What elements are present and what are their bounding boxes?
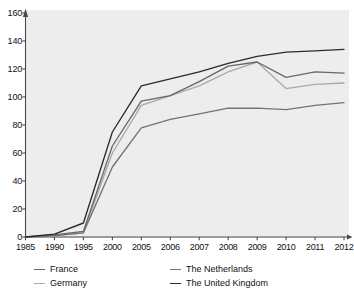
y-tick-label: 0 [0,233,22,242]
y-tick-label: 80 [0,121,22,130]
y-tick-label: 160 [0,9,22,18]
x-tick-label: 2011 [301,243,329,252]
legend-color-swatch [34,283,45,284]
y-tick-label: 120 [0,65,22,74]
x-tick-label: 2012 [330,243,354,252]
legend-item[interactable]: Germany [34,278,87,289]
y-tick-label: 100 [0,93,22,102]
chart-legend: FranceGermanyThe NetherlandsThe United K… [34,264,334,292]
y-tick-label: 140 [0,37,22,46]
x-tick-label: 2009 [243,243,271,252]
y-tick-label: 40 [0,177,22,186]
axis-layer [22,9,352,241]
chart-canvas [0,0,354,297]
legend-label: France [50,264,78,275]
series-line-the-united-kingdom [26,49,345,237]
legend-item[interactable]: The United Kingdom [170,278,268,289]
x-tick-label: 2000 [98,243,126,252]
line-chart: 020406080100120140160 198519901995200020… [0,0,354,297]
legend-label: The United Kingdom [186,278,268,289]
legend-item[interactable]: The Netherlands [170,264,253,275]
legend-color-swatch [170,283,181,284]
legend-label: The Netherlands [186,264,253,275]
legend-label: Germany [50,278,87,289]
x-tick-label: 2007 [185,243,213,252]
x-tick-label: 1985 [12,243,40,252]
x-tick-label: 2005 [127,243,155,252]
y-tick-label: 60 [0,149,22,158]
series-layer [26,49,345,237]
x-tick-label: 2008 [214,243,242,252]
series-line-the-netherlands [26,103,345,237]
x-tick-label: 2010 [272,243,300,252]
legend-color-swatch [34,269,45,270]
x-tick-label: 2006 [156,243,184,252]
legend-item[interactable]: France [34,264,78,275]
x-tick-label: 1995 [69,243,97,252]
legend-color-swatch [170,269,181,270]
x-tick-label: 1990 [40,243,68,252]
series-line-france [26,62,345,237]
y-tick-label: 20 [0,205,22,214]
